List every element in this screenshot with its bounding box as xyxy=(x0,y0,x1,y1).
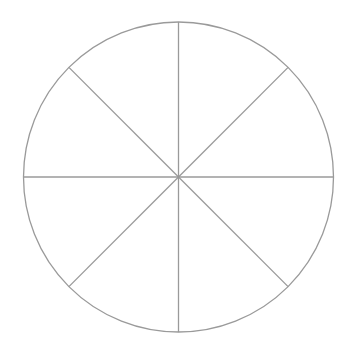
segmented-circle-diagram xyxy=(0,0,348,354)
segment-dividers xyxy=(24,22,334,332)
